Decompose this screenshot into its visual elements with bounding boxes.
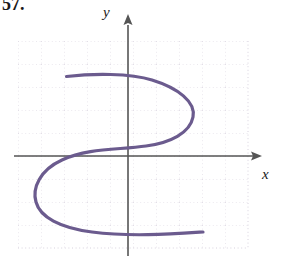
x-axis-label: x (262, 167, 269, 182)
grid-lines (18, 41, 248, 248)
y-axis-label: y (103, 5, 110, 20)
figure-container: 57. y x (0, 0, 282, 264)
y-axis-arrowhead (124, 14, 133, 25)
coordinate-plane (0, 0, 282, 264)
